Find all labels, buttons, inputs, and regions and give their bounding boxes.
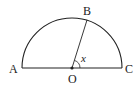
angle-x-arc — [74, 60, 80, 68]
semicircle-arc — [22, 18, 122, 68]
label-O: O — [68, 72, 77, 86]
angle-label-x: x — [80, 52, 86, 64]
label-A: A — [9, 62, 18, 76]
center-point-O — [70, 66, 73, 69]
label-B: B — [83, 4, 91, 18]
label-C: C — [125, 62, 133, 76]
semicircle-diagram: A B C O x — [0, 0, 139, 88]
